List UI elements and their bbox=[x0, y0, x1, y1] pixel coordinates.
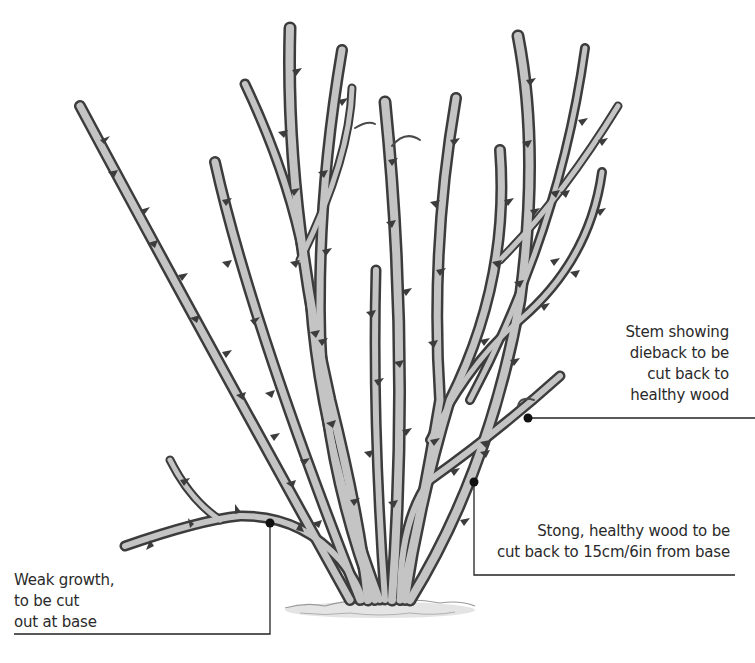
rose-stems bbox=[80, 28, 618, 600]
annotation-line: Weak growth, bbox=[14, 570, 114, 591]
annotation-line: cut back to bbox=[625, 364, 729, 385]
annotation-line: to be cut bbox=[14, 591, 114, 612]
annotation-line: Stong, healthy wood to be bbox=[497, 521, 730, 542]
annotation-healthy-wood: Stong, healthy wood to be cut back to 15… bbox=[497, 521, 730, 563]
annotation-line: dieback to be bbox=[625, 343, 729, 364]
annotation-line: cut back to 15cm/6in from base bbox=[497, 542, 730, 563]
annotation-line: healthy wood bbox=[625, 385, 729, 406]
callout-dieback bbox=[524, 414, 755, 423]
annotation-line: Stem showing bbox=[625, 322, 729, 343]
rose-pruning-diagram: Stem showing dieback to be cut back to h… bbox=[0, 0, 755, 663]
annotation-dieback: Stem showing dieback to be cut back to h… bbox=[625, 322, 729, 406]
annotation-line: out at base bbox=[14, 612, 114, 633]
annotation-weak-growth: Weak growth, to be cut out at base bbox=[14, 570, 114, 633]
